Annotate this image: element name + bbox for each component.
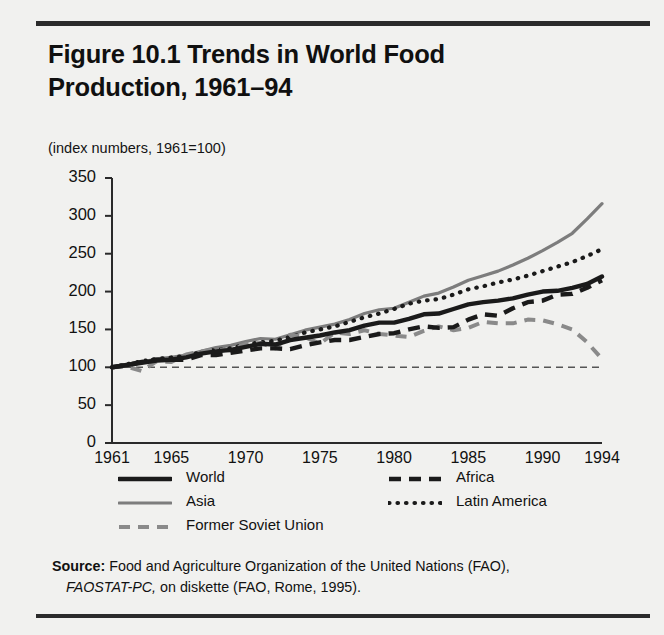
source-line2: FAOSTAT-PC, on diskette (FAO, Rome, 1995… bbox=[52, 577, 632, 598]
x-axis-tick-label: 1980 bbox=[364, 449, 424, 467]
source-label: Source: bbox=[52, 558, 105, 574]
legend-item-world[interactable]: World bbox=[118, 468, 225, 485]
legend-swatch-icon bbox=[118, 471, 172, 483]
y-axis-tick-label: 100 bbox=[48, 356, 96, 375]
legend-item-latin-america[interactable]: Latin America bbox=[388, 492, 547, 509]
chart-subtitle: (index numbers, 1961=100) bbox=[48, 140, 226, 156]
page-title: Figure 10.1 Trends in World Food Product… bbox=[48, 38, 568, 104]
y-axis-tick-label: 50 bbox=[48, 394, 96, 413]
chart-series bbox=[112, 204, 602, 371]
source-publication: FAOSTAT-PC, bbox=[66, 579, 156, 595]
figure-page: Figure 10.1 Trends in World Food Product… bbox=[0, 0, 664, 635]
chart-plot-area bbox=[40, 170, 620, 455]
series-line-latin-america bbox=[112, 249, 602, 367]
source-note: Source: Food and Agriculture Organizatio… bbox=[52, 556, 632, 597]
legend-label: Asia bbox=[186, 492, 215, 509]
y-axis-tick-label: 350 bbox=[48, 167, 96, 186]
y-axis-tick-label: 150 bbox=[48, 318, 96, 337]
line-chart: 050100150200250300350 196119651970197519… bbox=[40, 170, 620, 455]
legend-label: Africa bbox=[456, 468, 494, 485]
x-axis-tick-label: 1965 bbox=[141, 449, 201, 467]
x-axis-tick-label: 1975 bbox=[290, 449, 350, 467]
x-axis-tick-label: 1970 bbox=[216, 449, 276, 467]
bottom-rule bbox=[36, 614, 650, 618]
x-axis-tick-label: 1990 bbox=[513, 449, 573, 467]
top-rule bbox=[36, 21, 650, 26]
legend-swatch-icon bbox=[388, 495, 442, 507]
legend-item-former-soviet-union[interactable]: Former Soviet Union bbox=[118, 516, 324, 533]
legend-swatch-icon bbox=[118, 495, 172, 507]
x-axis-tick-label: 1985 bbox=[438, 449, 498, 467]
legend-label: World bbox=[186, 468, 225, 485]
legend-swatch-icon bbox=[118, 519, 172, 531]
legend-label: Former Soviet Union bbox=[186, 516, 324, 533]
legend-label: Latin America bbox=[456, 492, 547, 509]
chart-legend: WorldAsiaFormer Soviet UnionAfricaLatin … bbox=[40, 468, 640, 546]
y-axis-tick-label: 300 bbox=[48, 205, 96, 224]
source-line1: Food and Agriculture Organization of the… bbox=[105, 558, 510, 574]
y-tick-marks bbox=[105, 178, 112, 443]
series-line-asia bbox=[112, 204, 602, 368]
y-axis-tick-label: 250 bbox=[48, 243, 96, 262]
legend-swatch-icon bbox=[388, 471, 442, 483]
source-line2-rest: on diskette (FAO, Rome, 1995). bbox=[156, 579, 361, 595]
x-axis-tick-label: 1994 bbox=[572, 449, 632, 467]
chart-axes bbox=[112, 178, 602, 443]
legend-item-asia[interactable]: Asia bbox=[118, 492, 215, 509]
y-axis-tick-label: 200 bbox=[48, 281, 96, 300]
x-axis-tick-label: 1961 bbox=[82, 449, 142, 467]
legend-item-africa[interactable]: Africa bbox=[388, 468, 494, 485]
